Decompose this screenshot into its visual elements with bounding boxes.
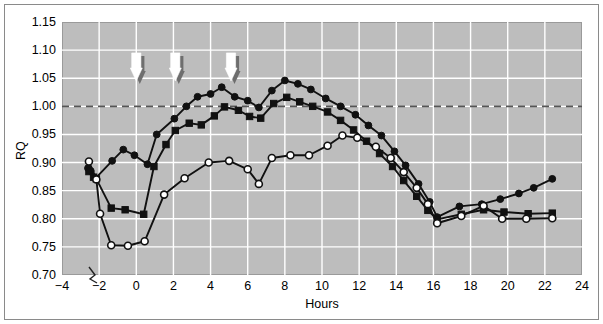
- y-tick-label: 1.15: [0, 15, 56, 29]
- x-tick-label: 16: [426, 279, 440, 293]
- x-axis-title: Hours: [305, 297, 338, 311]
- x-tick-label: 24: [575, 279, 589, 293]
- y-tick-label: 1.10: [0, 43, 56, 57]
- y-tick-label: 1.00: [0, 99, 56, 113]
- y-tick-label: 0.85: [0, 184, 56, 198]
- y-tick-label: 0.80: [0, 212, 56, 226]
- y-tick-label: 1.05: [0, 71, 56, 85]
- x-tick-label: 18: [464, 279, 478, 293]
- x-tick-label: 12: [352, 279, 366, 293]
- x-tick-label: 6: [244, 279, 251, 293]
- x-tick-label: 0: [133, 279, 140, 293]
- y-tick-label: 0.90: [0, 156, 56, 170]
- x-tick-label: 20: [501, 279, 515, 293]
- x-tick-label: 22: [538, 279, 552, 293]
- y-tick-label: 0.70: [0, 268, 56, 282]
- x-axis-break-mark: [87, 266, 109, 284]
- x-tick-label: 4: [207, 279, 214, 293]
- x-tick-label: 10: [315, 279, 329, 293]
- plot-area: [62, 22, 582, 275]
- x-tick-label: 8: [281, 279, 288, 293]
- y-tick-label: 0.95: [0, 127, 56, 141]
- x-tick-label: 14: [389, 279, 403, 293]
- x-tick-label: 2: [170, 279, 177, 293]
- y-tick-label: 0.75: [0, 240, 56, 254]
- intake-arrows: [62, 22, 582, 275]
- chart-figure: RQ 0.700.750.800.850.900.951.001.051.101…: [0, 0, 603, 324]
- x-tick-label: −4: [55, 279, 69, 293]
